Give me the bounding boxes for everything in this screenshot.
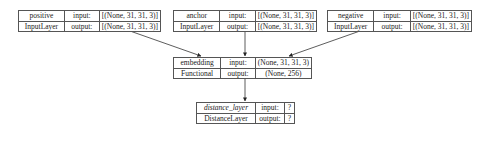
node-type: InputLayer <box>328 21 374 32</box>
output-shape: ? <box>285 113 295 124</box>
node-type: InputLayer <box>174 21 220 32</box>
input-shape: ? <box>285 103 295 114</box>
node-type: InputLayer <box>19 21 65 32</box>
output-label: output: <box>221 68 255 79</box>
node-negative[interactable]: negative input: [(None, 31, 31, 3)] Inpu… <box>327 10 472 32</box>
input-label: input: <box>220 11 255 22</box>
node-name: embedding <box>174 58 221 69</box>
edge-negative-to-embedding <box>289 31 360 56</box>
node-embedding[interactable]: embedding input: (None, 31, 31, 3) Funct… <box>173 57 312 79</box>
node-name: positive <box>19 11 65 22</box>
node-name: anchor <box>174 11 220 22</box>
node-name: negative <box>328 11 374 22</box>
node-type: Functional <box>174 68 221 79</box>
node-positive[interactable]: positive input: [(None, 31, 31, 3)] Inpu… <box>18 10 161 32</box>
node-distance-layer[interactable]: distance_layer input: ? DistanceLayer ou… <box>196 102 295 124</box>
input-label: input: <box>221 58 255 69</box>
output-label: output: <box>64 21 99 32</box>
node-type: DistanceLayer <box>197 113 256 124</box>
input-label: input: <box>64 11 99 22</box>
output-shape: (None, 256) <box>255 68 311 79</box>
node-anchor[interactable]: anchor input: [(None, 31, 31, 3)] InputL… <box>173 10 317 32</box>
output-label: output: <box>220 21 255 32</box>
input-label: input: <box>256 103 285 114</box>
input-shape: [(None, 31, 31, 3)] <box>99 11 160 22</box>
output-shape: [(None, 31, 31, 3)] <box>410 21 471 32</box>
input-shape: [(None, 31, 31, 3)] <box>255 11 316 22</box>
input-label: input: <box>374 11 410 22</box>
output-label: output: <box>374 21 410 32</box>
input-shape: [(None, 31, 31, 3)] <box>410 11 471 22</box>
output-shape: [(None, 31, 31, 3)] <box>255 21 316 32</box>
input-shape: (None, 31, 31, 3) <box>255 58 311 69</box>
output-shape: [(None, 31, 31, 3)] <box>99 21 160 32</box>
edge-positive-to-embedding <box>130 31 201 56</box>
node-name: distance_layer <box>197 103 256 114</box>
output-label: output: <box>256 113 285 124</box>
